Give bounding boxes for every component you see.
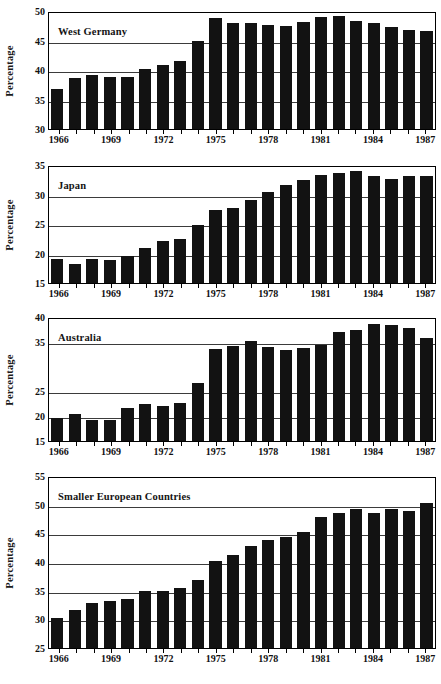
y-axis-label-text: Percentage	[4, 45, 15, 96]
bar	[385, 27, 397, 129]
bar	[420, 338, 432, 441]
bar	[192, 225, 204, 283]
bar	[403, 511, 415, 648]
bar	[368, 23, 380, 129]
x-axis-tick-label: 1975	[206, 288, 226, 299]
x-axis-tick-label: 1987	[415, 134, 435, 145]
x-axis-tick-label: 1984	[363, 653, 383, 664]
bar	[420, 176, 432, 283]
x-axis-tick-mark	[198, 284, 199, 288]
x-axis-tick-label: 1966	[49, 446, 69, 457]
bar	[104, 77, 116, 129]
y-axis-tick-label: 50	[35, 501, 45, 511]
y-axis-tick-label: 35	[35, 96, 45, 106]
bar	[315, 345, 327, 441]
x-axis-tick-mark	[233, 284, 234, 288]
bar	[104, 260, 116, 283]
bar	[209, 18, 221, 129]
x-axis-tick-label: 1969	[101, 653, 121, 664]
x-axis-tick-mark	[129, 442, 130, 446]
x-axis-tick-label: 1966	[49, 653, 69, 664]
bar	[368, 324, 380, 441]
bar	[192, 580, 204, 648]
bar	[385, 179, 397, 283]
bar	[245, 23, 257, 129]
y-axis-tick-label: 45	[35, 37, 45, 47]
bar	[315, 175, 327, 283]
x-axis-tick-mark	[129, 649, 130, 653]
x-axis-tick-mark	[338, 130, 339, 134]
y-axis-label: Percentage	[0, 12, 18, 130]
bar	[139, 248, 151, 283]
x-axis-tick-mark	[198, 442, 199, 446]
y-axis-ticks: 1520253035	[19, 166, 45, 284]
y-axis-tick-label: 25	[35, 387, 45, 397]
bar	[69, 78, 81, 129]
x-axis-tick-label: 1981	[311, 288, 331, 299]
x-axis-tick-mark	[355, 649, 356, 653]
bar	[333, 173, 345, 283]
bar	[350, 21, 362, 129]
bar	[297, 348, 309, 441]
x-axis-tick-mark	[286, 442, 287, 446]
bar	[245, 546, 257, 648]
y-axis-tick-label: 40	[35, 313, 45, 323]
bar	[157, 406, 169, 441]
x-axis-tick-label: 1972	[153, 653, 173, 664]
bar	[262, 192, 274, 283]
bar	[69, 414, 81, 441]
bar	[420, 31, 432, 129]
bar	[368, 513, 380, 648]
x-axis-tick-label: 1972	[153, 134, 173, 145]
y-axis-label-text: Percentage	[4, 537, 15, 588]
plot-area	[48, 318, 436, 442]
x-axis-tick-mark	[303, 442, 304, 446]
bar	[227, 23, 239, 129]
bar	[333, 332, 345, 441]
x-axis-tick-mark	[76, 130, 77, 134]
bar	[315, 17, 327, 129]
bar	[86, 420, 98, 441]
bar-series	[49, 167, 435, 283]
x-axis-tick-mark	[233, 442, 234, 446]
bar	[192, 383, 204, 441]
bar	[51, 89, 63, 129]
y-axis-ticks: 25303540455055	[19, 477, 45, 649]
y-axis-tick-label: 20	[35, 412, 45, 422]
x-axis-tick-label: 1987	[415, 446, 435, 457]
x-axis-tick-mark	[181, 649, 182, 653]
plot-area	[48, 166, 436, 284]
bar	[209, 349, 221, 441]
x-axis-tick-mark	[233, 130, 234, 134]
x-axis-tick-label: 1987	[415, 288, 435, 299]
y-axis-tick-label: 20	[35, 250, 45, 260]
x-axis-tick-mark	[303, 649, 304, 653]
x-axis-tick-mark	[76, 442, 77, 446]
bar	[245, 200, 257, 283]
x-axis-tick-mark	[251, 130, 252, 134]
x-axis-tick-mark	[390, 130, 391, 134]
x-axis-tick-mark	[181, 442, 182, 446]
x-axis-tick-mark	[198, 130, 199, 134]
bar	[51, 259, 63, 283]
bar	[157, 241, 169, 283]
x-axis-tick-mark	[390, 284, 391, 288]
y-axis-label: Percentage	[0, 477, 18, 649]
panel-title: Japan	[58, 180, 86, 191]
x-axis-tick-label: 1972	[153, 446, 173, 457]
x-axis-tick-mark	[408, 130, 409, 134]
x-axis-tick-label: 1978	[258, 446, 278, 457]
y-axis-tick-label: 40	[35, 66, 45, 76]
x-axis: 19661969197219751978198119841987	[48, 442, 436, 458]
y-axis-label-text: Percentage	[4, 354, 15, 405]
y-axis-tick-label: 45	[35, 529, 45, 539]
bar	[121, 256, 133, 283]
y-axis-label: Percentage	[0, 318, 18, 442]
y-axis-tick-label: 15	[35, 279, 45, 289]
bar	[262, 25, 274, 129]
bar	[297, 532, 309, 648]
x-axis-tick-mark	[355, 130, 356, 134]
x-axis-tick-label: 1972	[153, 288, 173, 299]
x-axis-tick-mark	[181, 284, 182, 288]
bar	[157, 65, 169, 129]
